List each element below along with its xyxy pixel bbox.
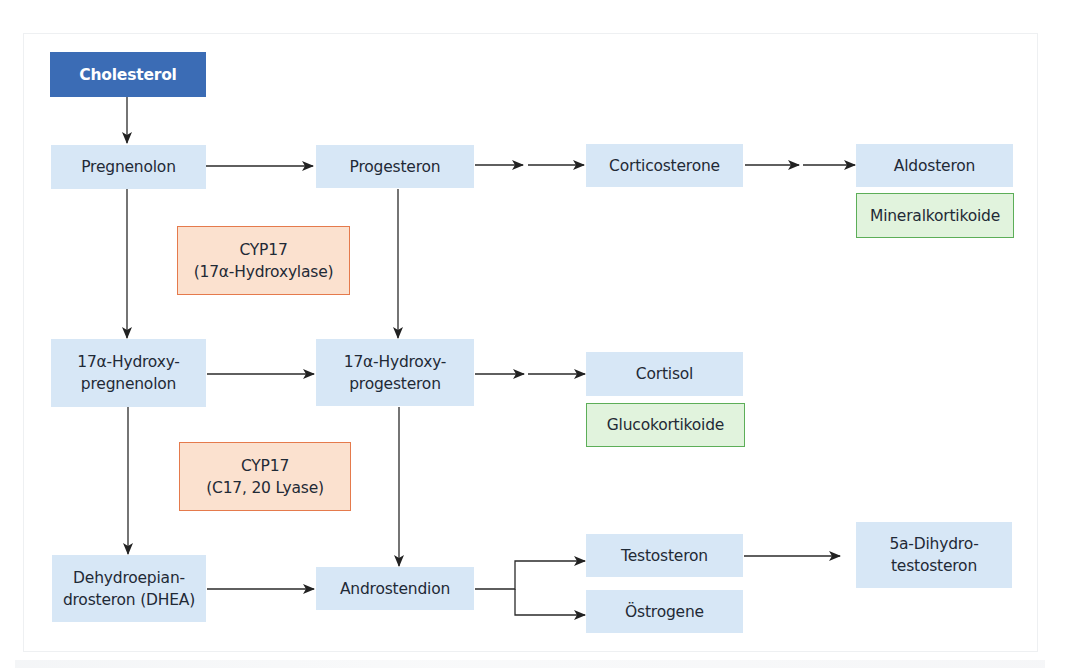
node-androstendion: Androstendion: [316, 567, 474, 610]
node-label-line2: drosteron (DHEA): [63, 589, 195, 611]
node-label: Corticosterone: [609, 155, 720, 177]
node-label: Progesteron: [350, 156, 441, 178]
node-label: Cholesterol: [79, 64, 176, 86]
node-label-line1: Dehydroepian-: [73, 567, 185, 589]
node-17a-hydroxyprogesteron: 17α-Hydroxy- progesteron: [316, 339, 474, 406]
node-label-line1: 5a-Dihydro-: [889, 533, 978, 555]
class-label: Mineralkortikoide: [870, 205, 1000, 227]
enzyme-label-line2: (17α-Hydroxylase): [194, 261, 334, 283]
node-testosteron: Testosteron: [586, 534, 743, 577]
node-cholesterol: Cholesterol: [50, 52, 206, 97]
node-progesteron: Progesteron: [316, 145, 474, 188]
class-glucokortikoide: Glucokortikoide: [586, 403, 745, 447]
node-label-line2: pregnenolon: [81, 373, 176, 395]
enzyme-label-line1: CYP17: [239, 239, 287, 261]
class-label: Glucokortikoide: [607, 414, 724, 436]
class-mineralkortikoide: Mineralkortikoide: [856, 193, 1014, 238]
node-17a-hydroxypregnenolon: 17α-Hydroxy- pregnenolon: [51, 339, 206, 407]
enzyme-cyp17-hydroxylase: CYP17 (17α-Hydroxylase): [177, 226, 350, 295]
node-label-line1: 17α-Hydroxy-: [77, 351, 180, 373]
illegible-caption-bleed: [15, 660, 1045, 668]
enzyme-cyp17-lyase: CYP17 (C17, 20 Lyase): [179, 442, 351, 511]
node-label-line1: 17α-Hydroxy-: [344, 351, 447, 373]
node-label-line2: progesteron: [349, 373, 441, 395]
node-5a-dihydrotestosteron: 5a-Dihydro- testosteron: [856, 522, 1012, 588]
enzyme-label-line1: CYP17: [241, 455, 289, 477]
enzyme-label-line2: (C17, 20 Lyase): [206, 477, 324, 499]
node-corticosterone: Corticosterone: [586, 144, 743, 187]
node-label: Androstendion: [340, 578, 450, 600]
node-label: Cortisol: [636, 363, 693, 385]
node-label: Östrogene: [625, 601, 704, 623]
node-cortisol: Cortisol: [586, 352, 743, 396]
node-label: Pregnenolon: [81, 156, 176, 178]
node-label-line2: testosteron: [891, 555, 977, 577]
node-label: Testosteron: [621, 545, 708, 567]
node-dhea: Dehydroepian- drosteron (DHEA): [52, 555, 206, 622]
node-label: Aldosteron: [894, 155, 975, 177]
node-pregnenolon: Pregnenolon: [51, 145, 206, 189]
node-oestrogene: Östrogene: [586, 590, 743, 633]
node-aldosteron: Aldosteron: [856, 144, 1013, 187]
